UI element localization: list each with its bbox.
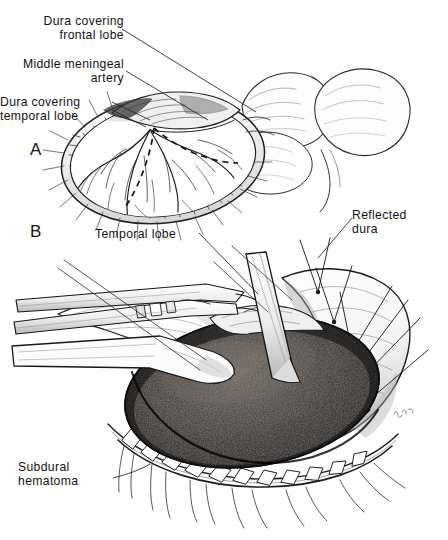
label-middle-meningeal-artery: Middle meningeal artery (0, 57, 124, 86)
label-dura-covering-frontal-lobe: Dura covering frontal lobe (0, 14, 124, 43)
panel-letter-a: A (30, 140, 42, 160)
leader-reflected-dura (318, 218, 352, 258)
panel-letter-b: B (30, 222, 42, 242)
figure-root: . . . (0, 0, 448, 540)
label-dura-covering-temporal-lobe: Dura covering temporal lobe (0, 95, 111, 124)
label-subdural-hematoma: Subdural hematoma (18, 460, 114, 489)
label-reflected-dura: Reflected dura (352, 208, 442, 237)
label-temporal-lobe: Temporal lobe (95, 227, 208, 241)
artist-signature (394, 409, 413, 418)
